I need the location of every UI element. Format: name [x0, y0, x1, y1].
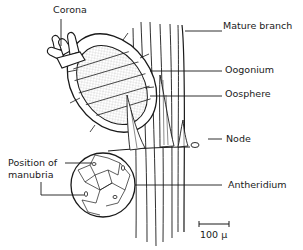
- scale-bar: [199, 221, 229, 227]
- label-mature-branch: Mature branch: [223, 20, 292, 31]
- label-antheridium: Antheridium: [228, 179, 287, 190]
- label-corona: Corona: [53, 4, 87, 15]
- label-position-of-manubria-2: manubria: [8, 169, 54, 180]
- label-oosphere: Oosphere: [225, 88, 271, 99]
- label-position-of-manubria-1: Position of: [8, 157, 57, 168]
- chara-reproductive-structures-drawing: [0, 0, 303, 250]
- label-oogonium: Oogonium: [225, 64, 274, 75]
- label-node: Node: [226, 133, 251, 144]
- scale-bar-label: 100 μ: [200, 229, 227, 240]
